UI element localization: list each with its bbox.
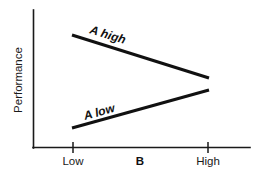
series-line-a-high — [72, 35, 209, 78]
x-tick-label-high: High — [196, 155, 220, 167]
chart-canvas: A high A low Low High B Performance — [0, 0, 264, 174]
x-axis-title: B — [136, 155, 144, 167]
x-tick-label-low: Low — [62, 155, 84, 167]
y-axis-title: Performance — [12, 47, 24, 113]
interaction-plot-figure: A high A low Low High B Performance — [0, 0, 264, 174]
